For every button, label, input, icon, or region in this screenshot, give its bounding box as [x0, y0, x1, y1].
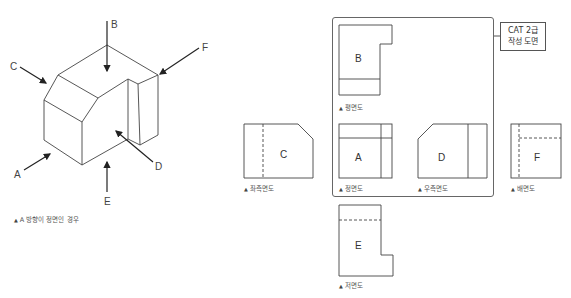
label-bottom-text: 저면도 — [345, 282, 363, 290]
label-right-side-text: 우측면도 — [424, 185, 448, 193]
label-plan: ▲평면도 — [339, 105, 363, 112]
view-rear — [511, 124, 561, 178]
label-left-side-text: 좌측면도 — [250, 185, 274, 193]
cat-callout-line1: CAT 2급 — [501, 25, 545, 36]
view-letter-f: F — [534, 152, 540, 163]
triangle-icon: ▲ — [244, 186, 248, 192]
triangle-icon: ▲ — [339, 283, 343, 289]
view-letter-c: C — [280, 149, 287, 160]
svg-text:E: E — [104, 196, 111, 207]
view-bottom — [339, 205, 393, 276]
isometric-caption-text: A 방향이 정면인 경우 — [20, 216, 79, 224]
label-left-side: ▲좌측면도 — [244, 186, 274, 193]
direction-letters: B C F A D E — [10, 19, 208, 207]
svg-text:B: B — [111, 19, 118, 30]
svg-text:A: A — [14, 169, 21, 180]
isometric-object — [44, 45, 158, 165]
cat-callout-line2: 작성 도면 — [501, 36, 545, 47]
arrow-c — [20, 67, 46, 83]
view-letter-e: E — [355, 240, 362, 251]
arrow-a — [24, 154, 50, 170]
view-left-side — [244, 124, 313, 178]
label-rear-text: 배면도 — [517, 185, 535, 193]
svg-text:D: D — [155, 161, 162, 172]
label-front-text: 정면도 — [345, 185, 363, 193]
label-plan-text: 평면도 — [345, 104, 363, 112]
label-bottom: ▲저면도 — [339, 283, 363, 290]
cat-callout-box: CAT 2급 작성 도면 — [500, 22, 546, 51]
label-right-side: ▲우측면도 — [418, 186, 448, 193]
triangle-icon: ▲ — [511, 186, 515, 192]
label-front: ▲정면도 — [339, 186, 363, 193]
arrow-d — [116, 131, 153, 162]
arrow-f — [160, 48, 199, 74]
triangle-icon: ▲ — [14, 217, 18, 223]
svg-text:C: C — [10, 61, 17, 72]
isometric-caption: ▲A 방향이 정면인 경우 — [14, 217, 79, 224]
triangle-icon: ▲ — [418, 186, 422, 192]
svg-text:F: F — [202, 42, 208, 53]
label-rear: ▲배면도 — [511, 186, 535, 193]
triangle-icon: ▲ — [339, 186, 343, 192]
triangle-icon: ▲ — [339, 105, 343, 111]
